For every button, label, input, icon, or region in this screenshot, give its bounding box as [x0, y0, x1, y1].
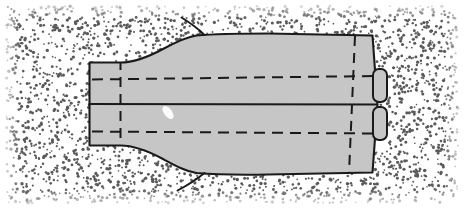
stipple-dot: [286, 8, 289, 11]
stipple-dot: [53, 99, 55, 101]
stipple-dot: [443, 140, 446, 143]
stipple-dot: [414, 143, 416, 145]
stipple-dot: [178, 172, 180, 174]
stipple-dot: [251, 190, 253, 192]
stipple-dot: [193, 13, 196, 16]
stipple-dot: [185, 195, 188, 198]
stipple-dot: [144, 198, 146, 200]
stipple-dot: [14, 63, 17, 66]
stipple-dot: [451, 91, 454, 94]
stipple-dot: [81, 186, 84, 189]
stipple-dot: [379, 50, 381, 52]
stipple-dot: [394, 93, 397, 96]
stipple-dot: [239, 200, 242, 203]
stipple-dot: [350, 182, 353, 185]
stipple-dot: [109, 181, 112, 184]
stipple-dot: [431, 41, 433, 43]
stipple-dot: [420, 144, 422, 146]
lower-tube-stub: [373, 107, 387, 140]
stipple-dot: [451, 97, 454, 100]
stipple-dot: [175, 13, 177, 15]
stipple-dot: [32, 56, 34, 58]
stipple-dot: [263, 194, 265, 196]
stipple-dot: [86, 32, 89, 35]
stipple-dot: [367, 199, 369, 201]
stipple-dot: [56, 170, 59, 173]
stipple-dot: [15, 43, 18, 46]
stipple-dot: [194, 187, 197, 190]
stipple-dot: [20, 182, 23, 185]
stipple-dot: [415, 123, 417, 125]
stipple-dot: [445, 174, 448, 177]
stipple-dot: [245, 192, 247, 194]
stipple-dot: [270, 13, 273, 16]
stipple-dot: [11, 94, 13, 96]
stipple-dot: [374, 168, 377, 171]
stipple-dot: [419, 118, 422, 121]
stipple-dot: [313, 200, 315, 202]
stipple-dot: [433, 99, 435, 101]
stipple-dot: [76, 158, 79, 161]
stipple-dot: [191, 188, 193, 190]
stipple-dot: [229, 198, 232, 201]
stipple-dot: [14, 182, 17, 185]
stipple-dot: [282, 191, 284, 193]
stipple-dot: [109, 164, 111, 166]
stipple-dot: [433, 33, 435, 35]
stipple-dot: [171, 26, 173, 28]
stipple-dot: [121, 159, 124, 162]
stipple-dot: [23, 152, 26, 155]
stipple-dot: [84, 54, 86, 56]
stipple-dot: [24, 146, 27, 149]
stipple-dot: [56, 89, 58, 91]
stipple-dot: [456, 188, 458, 190]
stipple-dot: [46, 149, 48, 151]
stipple-dot: [13, 72, 16, 75]
stipple-dot: [349, 192, 351, 194]
stipple-dot: [380, 59, 382, 61]
stipple-dot: [152, 27, 155, 30]
stipple-dot: [151, 14, 153, 16]
stipple-dot: [376, 182, 379, 185]
stipple-dot: [12, 164, 15, 167]
stipple-dot: [44, 82, 47, 85]
stipple-dot: [67, 130, 70, 133]
stipple-dot: [374, 191, 377, 194]
stipple-dot: [9, 89, 11, 91]
stipple-dot: [192, 17, 195, 20]
stipple-dot: [52, 6, 55, 9]
stipple-dot: [97, 42, 99, 44]
stipple-dot: [51, 42, 53, 44]
stipple-dot: [406, 131, 409, 134]
stipple-dot: [434, 31, 437, 34]
stipple-dot: [403, 86, 406, 89]
stipple-dot: [216, 9, 219, 12]
stipple-dot: [97, 36, 99, 38]
stipple-dot: [31, 10, 34, 13]
stipple-dot: [179, 179, 182, 182]
stipple-dot: [369, 176, 371, 178]
stipple-dot: [281, 10, 284, 13]
stipple-dot: [189, 173, 192, 176]
stipple-dot: [194, 198, 196, 200]
stipple-dot: [103, 163, 105, 165]
stipple-dot: [12, 20, 15, 23]
stipple-dot: [416, 60, 419, 63]
stipple-dot: [49, 74, 51, 76]
stipple-dot: [414, 19, 416, 21]
stipple-dot: [66, 49, 68, 51]
stipple-dot: [319, 12, 322, 15]
stipple-dot: [426, 63, 429, 66]
stipple-dot: [75, 162, 77, 164]
stipple-dot: [139, 161, 141, 163]
stipple-dot: [85, 98, 87, 100]
stipple-dot: [248, 184, 251, 187]
stipple-dot: [144, 21, 147, 24]
stipple-dot: [421, 156, 423, 158]
stipple-dot: [420, 23, 423, 26]
stipple-dot: [418, 108, 421, 111]
stipple-dot: [89, 195, 91, 197]
stipple-dot: [313, 11, 315, 13]
stipple-dot: [34, 129, 36, 131]
stipple-dot: [397, 70, 400, 73]
